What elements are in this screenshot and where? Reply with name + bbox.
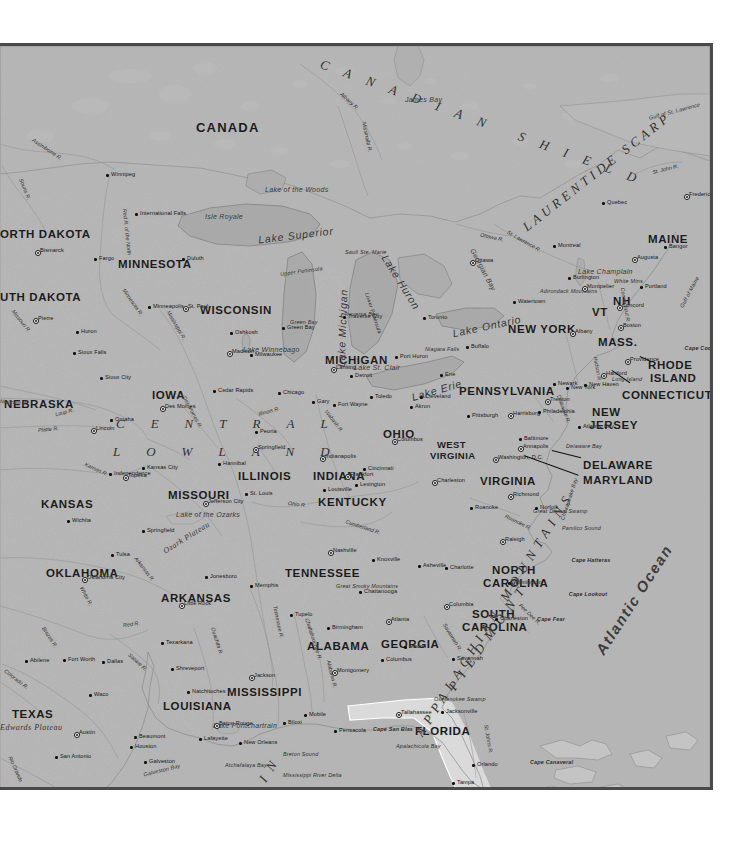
city-lafayette-marker: [199, 738, 202, 741]
city-quebec-marker: [602, 202, 605, 205]
state-label-illinois: ILLINOIS: [238, 470, 291, 482]
city-gary-label: Gary: [317, 398, 330, 404]
city-baton-rouge-label: Baton Rouge: [219, 720, 253, 726]
country-label-canada: CANADA: [196, 120, 260, 135]
city-buffalo-marker: [466, 346, 469, 349]
city-huron-marker: [76, 331, 79, 334]
city-chattanooga-label: Chattanooga: [364, 588, 397, 594]
city-little-rock-label: Little Rock: [184, 600, 211, 606]
city-columbus-label: Columbus: [386, 656, 412, 662]
state-label-mississippi: MISSISSIPPI: [227, 686, 302, 698]
city-orlando-label: Orlando: [477, 761, 498, 767]
city-cedar-rapids-label: Cedar Rapids: [218, 387, 253, 393]
water-label-apalachicola-bay: Apalachicola Bay: [396, 743, 441, 749]
cape-label-cape-hatteras: Cape Hatteras: [571, 557, 611, 564]
city-dallas-label: Dallas: [107, 658, 123, 664]
city-bismarck-label: Bismarck: [40, 247, 64, 253]
state-label-kansas: KANSAS: [41, 498, 93, 510]
city-tallahassee-label: Tallahassee: [401, 709, 432, 715]
city-waco-label: Waco: [94, 691, 109, 697]
city-charlotte-marker: [445, 567, 448, 570]
city-houston-marker: [130, 746, 133, 749]
city-erie-marker: [440, 374, 443, 377]
city-pensacola-marker: [334, 730, 337, 733]
city-asheville-label: Asheville: [423, 562, 446, 568]
city-fargo-label: Fargo: [99, 255, 114, 261]
cape-label-cape-san-blas: Cape San Blas: [373, 726, 413, 733]
city-montgomery-label: Montgomery: [337, 667, 369, 673]
city-birmingham-label: Birmingham: [332, 624, 363, 630]
city-beaumont-marker: [134, 736, 137, 739]
city-winnipeg-marker: [106, 174, 109, 177]
city-wilmington-marker: [508, 582, 511, 585]
city-lafayette-label: Lafayette: [204, 735, 228, 741]
city-philadelphia-marker: [538, 411, 541, 414]
city-jackson-label: Jackson: [254, 672, 275, 678]
city-tampa-marker: [452, 782, 455, 785]
city-atlantic-city-label: Atlantic City: [583, 423, 614, 429]
city-akron-marker: [410, 406, 413, 409]
city-tupelo-label: Tupelo: [295, 611, 313, 617]
state-label-delaware: DELAWARE: [583, 459, 653, 471]
city-philadelphia-label: Philadelphia: [543, 408, 575, 414]
state-label-connecticut: CONNECTICUT: [622, 389, 712, 401]
city-savannah-marker: [452, 658, 455, 661]
city-st-paul-label: St. Paul: [188, 303, 208, 309]
city-abilene-marker: [25, 660, 28, 663]
city-port-huron-marker: [395, 356, 398, 359]
city-frankfort-label: Frankfort: [350, 471, 373, 477]
city-lincoln-label: Lincoln: [96, 425, 114, 431]
city-roanoke-label: Roanoke: [475, 504, 498, 510]
city-st-louis-label: St. Louis: [250, 490, 273, 496]
city-oshkosh-label: Oshkosh: [235, 329, 258, 335]
state-label-virginia: VIRGINIA: [430, 450, 475, 461]
city-quebec-label: Quebec: [607, 199, 627, 205]
state-label-uth-dakota: UTH DAKOTA: [0, 291, 81, 303]
city-annapolis-label: Annapolis: [523, 443, 548, 449]
city-knoxville-label: Knoxville: [377, 556, 400, 562]
water-label-atchafalaya-bay: Atchafalaya Bay: [225, 762, 267, 768]
city-birmingham-marker: [327, 627, 330, 630]
city-bangor-label: Bangor: [669, 243, 688, 249]
city-jonesboro-marker: [205, 576, 208, 579]
city-houston-label: Houston: [135, 743, 157, 749]
state-label-orth-dakota: ORTH DAKOTA: [0, 228, 91, 240]
city-burlington-label: Burlington: [573, 274, 599, 280]
city-columbus-label: Columbus: [397, 436, 423, 442]
city-columbus-marker: [381, 659, 384, 662]
city-jacksonville-marker: [441, 711, 444, 714]
city-sioux-falls-label: Sioux Falls: [78, 349, 106, 355]
city-asheville-marker: [418, 565, 421, 568]
city-waco-marker: [89, 694, 92, 697]
city-international-falls-marker: [135, 213, 138, 216]
city-savannah-label: Savannah: [457, 655, 483, 661]
city-st-louis-marker: [245, 493, 248, 496]
city-wilmington-label: Wilmington: [513, 579, 542, 585]
city-peoria-marker: [255, 431, 258, 434]
city-augusta-label: Augusta: [637, 254, 658, 260]
state-label-island: ISLAND: [650, 372, 696, 384]
city-burlington-marker: [568, 277, 571, 280]
cape-label-cape-lookout: Cape Lookout: [568, 591, 608, 598]
city-jefferson-city-label: Jefferson City: [208, 498, 244, 504]
city-tulsa-label: Tulsa: [116, 551, 130, 557]
city-beaumont-label: Beaumont: [139, 733, 165, 739]
state-label-mass-: MASS.: [598, 336, 637, 348]
city-tulsa-marker: [111, 554, 114, 557]
city-watertown-label: Watertown: [518, 298, 545, 304]
water-label-delaware-bay: Delaware Bay: [566, 443, 602, 449]
city-portland-label: Portland: [645, 283, 667, 289]
city-fargo-marker: [94, 258, 97, 261]
water-label-sault-ste-marie: Sault Ste. Marie: [345, 249, 387, 255]
city-charleston-label: Charleston: [437, 477, 465, 483]
city-mobile-marker: [304, 714, 307, 717]
city-louisville-marker: [323, 489, 326, 492]
city-galveston-marker: [144, 761, 147, 764]
city-atlanta-label: Atlanta: [391, 616, 409, 622]
city-oshkosh-marker: [230, 332, 233, 335]
city-texarkana-marker: [161, 642, 164, 645]
city-dallas-marker: [102, 661, 105, 664]
city-new-orleans-marker: [239, 742, 242, 745]
city-san-antonio-label: San Antonio: [60, 753, 91, 759]
map-frame: CANADABAHAMAS ORTH DAKOTAUTH DAKOTAMINNE…: [0, 43, 713, 790]
